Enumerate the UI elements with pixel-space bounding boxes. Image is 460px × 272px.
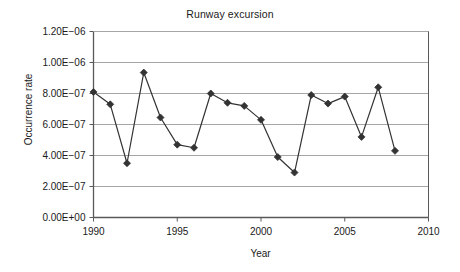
data-point-marker [325,100,332,107]
data-point-marker [157,114,164,121]
data-series-runway-excursion [90,69,399,176]
data-point-marker [308,92,315,99]
x-axis-tick-label: 1990 [82,226,105,237]
plot-area: 0.00E+002.00E−074.00E−076.00E−078.00E−07… [0,0,460,272]
data-point-marker [224,99,231,106]
x-axis-tick-label: 2000 [250,226,273,237]
y-axis-tick-label: 6.00E−07 [42,119,86,130]
x-axis-tick-label: 2005 [334,226,357,237]
y-axis-tick-label: 4.00E−07 [42,150,86,161]
data-point-marker [207,90,214,97]
chart-title: Runway excursion [0,8,460,20]
y-axis-tick-labels: 0.00E+002.00E−074.00E−076.00E−078.00E−07… [42,26,86,223]
series-line [94,73,396,173]
gridlines [94,32,429,187]
data-point-marker [375,84,382,91]
y-axis-label: Occurrence rate [23,40,34,180]
data-point-marker [341,93,348,100]
data-point-marker [358,133,365,140]
y-axis-tick-label: 8.00E−07 [42,88,86,99]
chart-container: Runway excursion Occurrence rate Year 0.… [0,0,460,272]
y-axis-tick-label: 0.00E+00 [42,212,86,223]
data-point-marker [191,144,198,151]
data-point-marker [392,147,399,154]
x-axis-tick-label: 2010 [417,226,440,237]
y-axis-tick-label: 2.00E−07 [42,181,86,192]
x-axis-label: Year [93,248,428,259]
data-point-marker [140,69,147,76]
data-point-marker [174,141,181,148]
x-axis-tick-label: 1995 [166,226,189,237]
y-axis-tick-label: 1.00E−06 [42,57,86,68]
data-point-marker [124,160,131,167]
x-axis-tick-labels: 19901995200020052010 [82,226,440,237]
y-axis-tick-label: 1.20E−06 [42,26,86,37]
